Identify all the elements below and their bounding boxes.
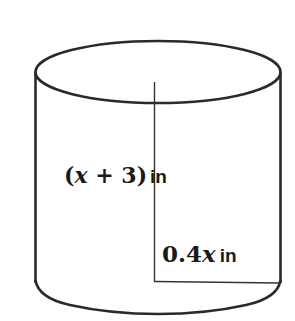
height-unit: in	[150, 166, 167, 187]
height-open-paren: (	[64, 162, 74, 188]
cylinder-diagram	[0, 0, 295, 321]
height-label: (x + 3)in	[64, 164, 167, 187]
radius-line	[155, 282, 280, 284]
height-constant: 3	[121, 162, 136, 188]
height-close-paren: )	[137, 162, 147, 188]
radius-unit: in	[220, 245, 237, 266]
cylinder-bottom-arc	[36, 280, 281, 314]
height-variable: x	[74, 162, 87, 188]
radius-coefficient: 0.4	[162, 240, 202, 267]
cylinder-top-ellipse	[36, 41, 281, 103]
radius-label: 0.4xin	[162, 242, 237, 266]
height-operator: +	[88, 162, 122, 188]
radius-variable: x	[202, 240, 216, 267]
